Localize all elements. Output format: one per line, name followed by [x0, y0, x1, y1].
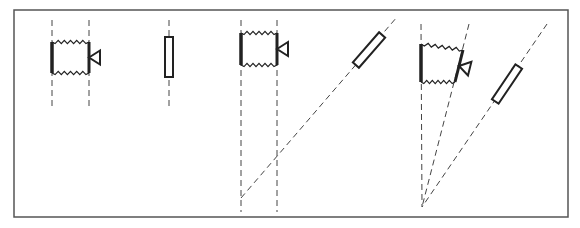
rod-icon	[165, 37, 173, 77]
rod-icon	[492, 64, 522, 103]
camera-icon	[241, 31, 288, 66]
panel-1	[52, 20, 173, 110]
diagram-frame	[14, 10, 568, 217]
rod-icon	[353, 32, 385, 67]
panel-2	[241, 17, 397, 212]
camera-icon	[421, 43, 471, 83]
panel-3	[421, 24, 547, 207]
projection-diagram	[0, 0, 580, 228]
panels	[52, 17, 547, 212]
projection-line	[422, 24, 547, 207]
camera-icon	[52, 40, 100, 74]
